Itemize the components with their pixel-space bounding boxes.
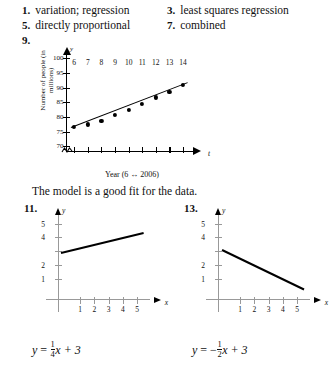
line-x-axis	[206, 299, 310, 300]
scatter-y-tick-label: 70	[56, 142, 63, 150]
scatter-y-tick-label: 80	[56, 113, 63, 121]
scatter-x-tick-label: 9	[113, 58, 117, 67]
line-x-tick-label: 1	[238, 305, 242, 314]
equation-equals: =	[200, 343, 207, 357]
answer-item-7: 7. combined	[167, 19, 226, 31]
line-y-tick-label: 5	[201, 219, 205, 228]
scatter-y-tick	[63, 88, 70, 89]
line-y-tick-label: 2	[201, 260, 205, 269]
scatter-x-axis	[66, 151, 194, 152]
scatter-y-tick	[63, 73, 70, 74]
line-graph-segment	[61, 232, 144, 254]
line-y-tick	[215, 279, 222, 280]
fraction-numerator: 1	[217, 339, 221, 349]
scatter-y-tick-label: 95	[56, 69, 63, 77]
equation-fraction: 12	[217, 340, 221, 358]
line-x-tick	[240, 297, 241, 304]
scatter-x-tick-label: 8	[100, 58, 104, 67]
line-plot-area: y x 124512345	[46, 214, 154, 312]
line-x-tick	[94, 297, 95, 304]
line-x-tick-label: 2	[252, 305, 256, 314]
scatter-x-tick-label: 6	[72, 58, 76, 67]
equation-lhs: y	[32, 343, 37, 357]
exercise-number-13: 13.	[184, 202, 198, 214]
scatter-x-axis-caption: Year (6 ↔ 2006)	[52, 170, 212, 179]
scatter-x-tick	[115, 147, 116, 153]
scatter-x-tick-label: 10	[125, 58, 133, 67]
line-y-symbol: y	[222, 206, 225, 215]
line-x-symbol: x	[325, 298, 328, 307]
line-x-tick	[109, 297, 110, 304]
line-y-tick	[55, 265, 62, 266]
scatter-trend-line	[71, 82, 189, 128]
line-y-symbol: y	[62, 206, 65, 215]
scatter-x-tick	[156, 147, 157, 153]
line-x-tick	[283, 297, 284, 304]
scatter-data-point	[154, 96, 158, 100]
line-plot-area: y x 124512345	[206, 214, 314, 312]
scatter-x-tick-label: 12	[152, 58, 160, 67]
line-x-tick	[123, 297, 124, 304]
answer-list: 1. variation; regression 3. least square…	[22, 4, 322, 34]
line-y-axis	[58, 214, 59, 312]
line-y-tick-label: 4	[201, 233, 205, 242]
scatter-y-tick	[63, 132, 70, 133]
scatter-y-tick	[63, 102, 70, 103]
line-y-tick	[215, 265, 222, 266]
scatter-data-point	[99, 119, 103, 123]
scatter-x-tick	[142, 147, 143, 153]
answer-key-page: 1. variation; regression 3. least square…	[0, 0, 329, 367]
line-x-tick-label: 5	[135, 305, 139, 314]
line-x-tick	[80, 297, 81, 304]
scatter-x-tick-label: 7	[86, 58, 90, 67]
answer-item-3: 3. least squares regression	[167, 4, 289, 16]
scatter-y-tick	[63, 146, 70, 147]
equation-13: y = −12x + 3	[192, 340, 248, 358]
scatter-y-tick-label: 100	[53, 54, 64, 62]
line-x-tick-label: 3	[107, 305, 111, 314]
line-y-tick	[55, 279, 62, 280]
line-x-tick	[269, 297, 270, 304]
answer-text: combined	[180, 19, 225, 31]
line-x-tick	[297, 297, 298, 304]
line-y-tick-label: 1	[201, 274, 205, 283]
answer-number: 5.	[22, 19, 30, 31]
scatter-x-tick-label: 14	[179, 58, 187, 67]
line-x-tick	[254, 297, 255, 304]
line-x-tick-label: 5	[295, 305, 299, 314]
scatter-x-tick	[74, 147, 75, 153]
x-axis-arrow-icon	[314, 297, 321, 303]
x-axis-arrow-icon	[193, 147, 201, 155]
scatter-x-tick	[183, 147, 184, 153]
y-axis-arrow-icon	[215, 208, 221, 215]
line-x-tick-label: 2	[92, 305, 96, 314]
scatter-data-point	[140, 102, 144, 106]
scatter-x-symbol: t	[208, 149, 210, 158]
line-y-tick	[215, 251, 222, 252]
scatter-x-tick-label: 11	[139, 58, 146, 67]
line-y-tick-label: 5	[41, 219, 45, 228]
answer-row: 5. directly proportional 7. combined	[22, 19, 322, 34]
scatter-data-point	[127, 108, 131, 112]
line-x-tick	[137, 297, 138, 304]
scatter-y-tick	[63, 117, 70, 118]
fraction-denominator: 2	[217, 349, 221, 359]
scatter-data-point	[167, 90, 171, 94]
line-graph-segment	[221, 249, 304, 290]
answer-text: variation; regression	[35, 4, 129, 16]
answer-item-1: 1. variation; regression	[22, 4, 167, 16]
scatter-y-tick-label: 75	[56, 128, 63, 136]
scatter-x-tick-label: 13	[166, 58, 174, 67]
line-y-tick-label: 2	[41, 260, 45, 269]
line-x-tick-label: 1	[78, 305, 82, 314]
line-chart-exercise-13: 13. y x 124512345 y = −12x + 3	[184, 202, 329, 362]
scatter-data-point	[181, 83, 185, 87]
answer-number: 3.	[167, 4, 175, 16]
answer-item-5: 5. directly proportional	[22, 19, 167, 31]
answer-row: 1. variation; regression 3. least square…	[22, 4, 322, 19]
answer-text: directly proportional	[35, 19, 130, 31]
scatter-x-tick	[129, 147, 130, 153]
line-y-tick	[215, 237, 222, 238]
line-y-axis	[218, 214, 219, 312]
line-x-symbol: x	[165, 298, 168, 307]
